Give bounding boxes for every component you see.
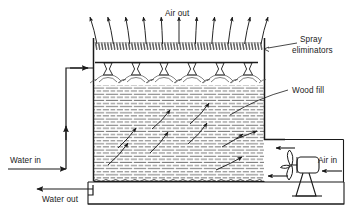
- spray-nozzle: [131, 63, 140, 75]
- label-air-out: Air out: [165, 9, 190, 18]
- air-out-arrow: [212, 17, 215, 44]
- label-wood-fill: Wood fill: [292, 86, 324, 95]
- spray-nozzle: [215, 63, 224, 75]
- spray-pattern: [230, 75, 266, 83]
- air-out-arrow: [143, 17, 146, 44]
- distribution-header: [90, 63, 266, 84]
- cooling-tower-diagram: Air out Spray eliminators Wood fill Wate…: [0, 0, 353, 217]
- label-spray-eliminators-line2: eliminators: [292, 46, 333, 55]
- air-out-arrow: [195, 17, 196, 44]
- spray-nozzle: [243, 63, 252, 75]
- label-water-out: Water out: [42, 195, 79, 204]
- spray-nozzle: [159, 63, 168, 75]
- spray-pattern: [118, 75, 154, 83]
- air-out-arrow: [161, 17, 162, 44]
- spray-pattern: [90, 75, 126, 83]
- spray-pattern: [146, 75, 182, 83]
- spray-nozzle: [187, 63, 196, 75]
- wood-fill-region: [94, 85, 264, 181]
- air-out-arrow: [108, 17, 114, 44]
- air-out-arrow: [245, 17, 251, 44]
- water-in-pipe: [8, 68, 93, 169]
- air-out-arrow: [228, 17, 232, 44]
- label-air-in: Air in: [318, 156, 338, 165]
- spray-nozzle: [103, 63, 112, 75]
- label-spray-eliminators-line1: Spray: [300, 35, 323, 44]
- diagram-canvas: Air out Spray eliminators Wood fill Wate…: [0, 0, 353, 217]
- air-out-arrow: [126, 17, 130, 44]
- spray-pattern: [202, 75, 238, 83]
- water-out-pipe: [37, 185, 93, 195]
- label-water-in: Water in: [10, 156, 41, 165]
- spray-pattern: [174, 75, 210, 83]
- air-out-arrows: [90, 17, 268, 44]
